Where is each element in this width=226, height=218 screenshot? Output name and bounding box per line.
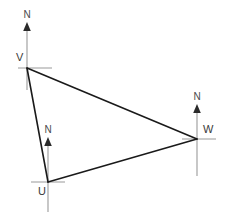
survey-diagram-canvas: V U W N N N bbox=[0, 0, 226, 218]
north-reference-U bbox=[31, 137, 65, 212]
north-label-V: N bbox=[23, 9, 30, 20]
north-label-U: N bbox=[44, 124, 51, 135]
north-labels-group: N N N bbox=[23, 9, 200, 135]
edge-W-U bbox=[48, 139, 197, 182]
vertex-label-W: W bbox=[203, 123, 214, 135]
survey-triangle-svg: V U W N N N bbox=[0, 0, 226, 218]
north-label-W: N bbox=[193, 91, 200, 102]
edge-V-W bbox=[27, 68, 197, 139]
vertex-label-V: V bbox=[16, 51, 24, 63]
triangle-edges-group bbox=[27, 68, 197, 182]
north-arrowhead-W bbox=[193, 104, 201, 113]
north-reference-group bbox=[18, 22, 216, 212]
north-arrowhead-V bbox=[23, 22, 31, 31]
north-reference-W bbox=[182, 104, 216, 176]
north-arrowhead-U bbox=[44, 137, 52, 146]
vertex-label-U: U bbox=[38, 185, 46, 197]
